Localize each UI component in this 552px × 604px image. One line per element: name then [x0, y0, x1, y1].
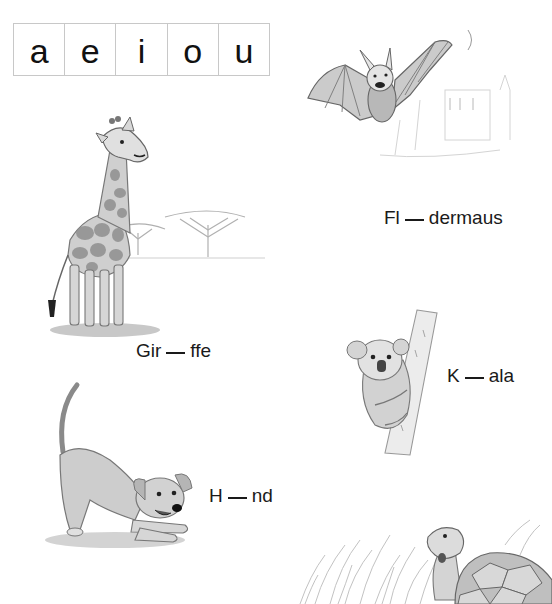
word-dog: Hnd: [209, 485, 273, 507]
vowel-i: i: [116, 24, 167, 75]
word-bat-suffix: dermaus: [429, 207, 503, 228]
koala-illustration: [345, 305, 445, 465]
word-dog-prefix: H: [209, 485, 223, 506]
word-bat: Fldermaus: [384, 207, 503, 229]
word-koala-suffix: ala: [489, 365, 514, 386]
vowel-o: o: [168, 24, 219, 75]
vowel-u: u: [219, 24, 269, 75]
dog-illustration: [35, 380, 210, 555]
word-giraffe: Girffe: [136, 340, 211, 362]
tortoise-illustration: [290, 505, 552, 604]
word-giraffe-suffix: ffe: [190, 340, 211, 361]
word-giraffe-prefix: Gir: [136, 340, 161, 361]
giraffe-illustration: [30, 105, 280, 340]
vowel-grid: a e i o u: [13, 23, 270, 76]
vowel-e: e: [65, 24, 116, 75]
blank-dog[interactable]: [228, 497, 247, 499]
word-koala: Kala: [447, 365, 514, 387]
bat-illustration: [300, 20, 552, 180]
blank-giraffe[interactable]: [166, 352, 185, 354]
word-koala-prefix: K: [447, 365, 460, 386]
vowel-a: a: [14, 24, 65, 75]
blank-bat[interactable]: [405, 219, 424, 221]
blank-koala[interactable]: [465, 377, 484, 379]
word-bat-prefix: Fl: [384, 207, 400, 228]
word-dog-suffix: nd: [252, 485, 273, 506]
